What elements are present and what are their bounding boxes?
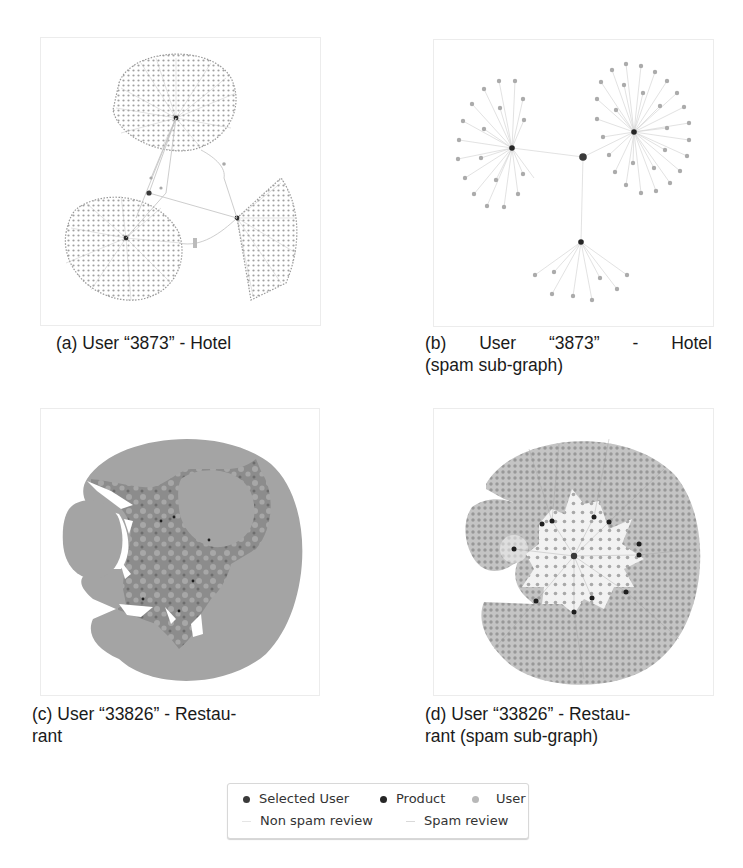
user-node-stack <box>193 238 197 248</box>
caption-b-line1: (b) User “3873” - Hotel <box>425 332 712 354</box>
user-node <box>159 186 162 189</box>
legend-label-non-spam: Non spam review <box>260 813 373 828</box>
legend-label-spam: Spam review <box>424 813 508 828</box>
legend-label-user: User <box>496 791 526 806</box>
network-graph-a <box>41 38 320 325</box>
caption-c-line2: rant <box>32 725 322 747</box>
caption-b: (b) User “3873” - Hotel (spam sub-graph) <box>425 332 712 376</box>
figure-legend: Selected User Product User Non spam revi… <box>227 783 529 839</box>
caption-c-line1: (c) User “33826” - Restau- <box>32 703 322 725</box>
legend-label-selected-user: Selected User <box>259 791 349 806</box>
caption-d: (d) User “33826” - Restau- rant (spam su… <box>425 703 715 747</box>
panel-b-graph <box>433 39 714 327</box>
caption-b-line2: (spam sub-graph) <box>425 354 712 376</box>
user-lobe-left <box>63 500 123 578</box>
legend-label-product: Product <box>396 791 445 806</box>
caption-d-line2: rant (spam sub-graph) <box>425 725 715 747</box>
panel-a-graph <box>40 37 321 326</box>
network-graph-b <box>434 40 713 326</box>
selected-user-node <box>579 153 587 161</box>
caption-d-line1: (d) User “33826” - Restau- <box>425 703 715 725</box>
product-cluster-top <box>113 54 236 151</box>
user-node <box>149 176 152 179</box>
selected-user-node <box>571 553 577 559</box>
legend-item-user: User <box>472 790 526 808</box>
spam-edge-icon <box>406 821 415 822</box>
legend-row-edges: Non spam review Spam review <box>228 812 528 830</box>
non-spam-edge-icon <box>242 821 251 822</box>
user-dot-icon <box>472 796 479 803</box>
caption-c: (c) User “33826” - Restau- rant <box>32 703 322 747</box>
product-node <box>509 145 515 151</box>
panel-c-graph <box>40 408 320 696</box>
legend-item-selected-user: Selected User <box>243 790 349 808</box>
legend-item-non-spam: Non spam review <box>242 812 373 830</box>
product-node <box>578 239 584 245</box>
legend-item-product: Product <box>380 790 445 808</box>
panel-d-graph <box>433 408 714 696</box>
caption-a-text: (a) User “3873” - Hotel <box>56 333 231 353</box>
selected-user-node <box>146 190 151 195</box>
legend-row-nodes: Selected User Product User <box>228 790 528 808</box>
network-graph-d <box>434 409 713 695</box>
caption-a: (a) User “3873” - Hotel <box>56 332 336 354</box>
product-node <box>631 129 637 135</box>
user-node <box>222 162 226 166</box>
product-cluster-left <box>65 196 182 300</box>
network-graph-c <box>41 409 319 695</box>
product-dot-icon <box>380 796 387 803</box>
selected-user-dot-icon <box>243 796 250 803</box>
legend-item-spam: Spam review <box>406 812 508 830</box>
spam-edges <box>458 64 689 300</box>
product-cluster-right <box>235 178 297 300</box>
